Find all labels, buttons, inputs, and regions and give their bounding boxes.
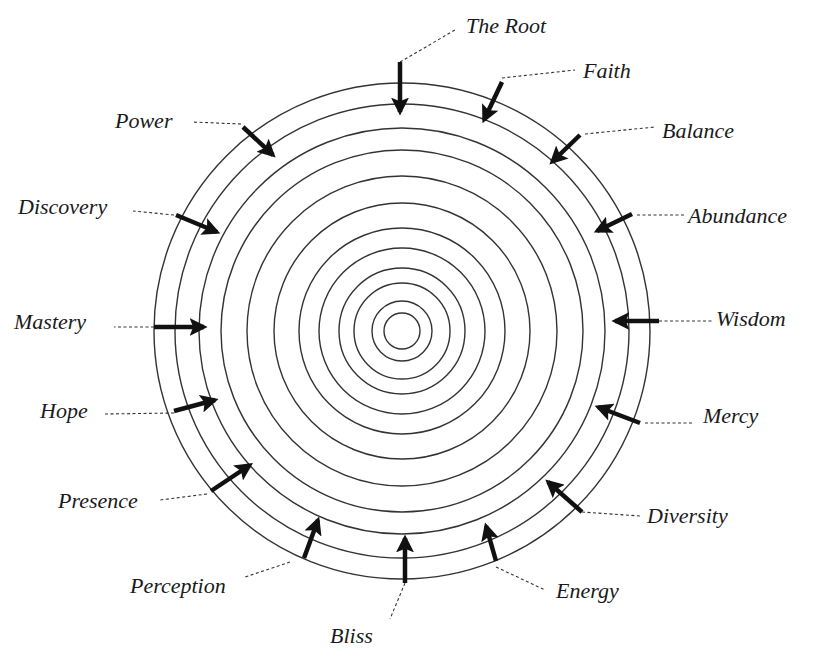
dashed-leader-lines: [105, 30, 712, 619]
leader-line-the-root: [400, 30, 455, 62]
leader-line-discovery: [133, 211, 174, 215]
label-presence: Presence: [58, 490, 138, 512]
concentric-circle-diagram: [0, 0, 819, 661]
ring-9: [339, 268, 465, 394]
arrow-icon-power: [243, 127, 273, 155]
leader-line-faith: [502, 70, 575, 78]
arrow-icon-discovery: [176, 215, 217, 232]
ring-3: [199, 128, 605, 534]
leader-line-bliss: [390, 583, 405, 619]
label-abundance: Abundance: [688, 205, 787, 227]
leader-line-diversity: [582, 512, 640, 516]
label-diversity: Diversity: [647, 505, 728, 527]
ring-4: [221, 150, 583, 512]
arrow-icon-abundance: [597, 214, 632, 231]
ring-2: [175, 104, 629, 558]
leader-line-energy: [496, 567, 545, 590]
arrow-icon-presence: [211, 465, 250, 491]
arrow-icon-perception: [304, 520, 318, 558]
label-power: Power: [115, 110, 172, 132]
label-faith: Faith: [583, 60, 631, 82]
ring-5: [247, 176, 557, 486]
arrow-icon-faith: [484, 82, 502, 120]
ring-8: [319, 248, 485, 414]
leader-line-power: [192, 122, 241, 124]
arrow-icon-balance: [552, 135, 580, 162]
ring-12: [384, 313, 420, 349]
label-mercy: Mercy: [703, 405, 758, 427]
label-discovery: Discovery: [18, 196, 107, 218]
ring-10: [354, 283, 450, 379]
label-bliss: Bliss: [330, 625, 373, 647]
label-mastery: Mastery: [14, 311, 86, 333]
leader-line-hope: [105, 413, 174, 414]
arrow-icon-mercy: [598, 407, 640, 423]
label-balance: Balance: [662, 120, 734, 142]
leader-line-perception: [245, 562, 290, 577]
label-perception: Perception: [130, 575, 226, 597]
leader-line-balance: [585, 127, 655, 134]
ring-6: [274, 203, 530, 459]
label-energy: Energy: [556, 580, 619, 602]
arrow-icon-diversity: [548, 482, 582, 512]
label-wisdom: Wisdom: [716, 308, 786, 330]
arrow-icon-hope: [174, 400, 215, 411]
leader-line-presence: [160, 494, 207, 500]
ring-7: [299, 228, 505, 434]
label-hope: Hope: [40, 400, 88, 422]
ring-11: [372, 301, 432, 361]
arrow-icon-energy: [486, 526, 496, 561]
label-the-root: The Root: [466, 15, 546, 37]
